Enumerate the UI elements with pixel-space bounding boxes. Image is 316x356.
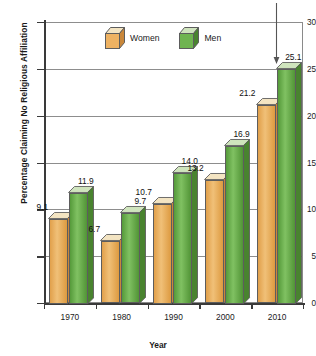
value-label-women-1980: 6.7 <box>88 224 100 234</box>
bar-men-1990 <box>172 172 191 303</box>
orange-cube-icon <box>105 27 125 49</box>
y-tick-mark <box>37 116 44 117</box>
x-tick-mark <box>96 303 97 309</box>
bar-women-2000 <box>204 179 223 303</box>
legend-label-women: Women <box>130 33 159 43</box>
y-axis-line <box>44 20 46 305</box>
x-tick-label-2010: 2010 <box>250 312 304 322</box>
down-arrow-annotation-icon <box>272 3 281 65</box>
legend-item-men: Men <box>179 27 221 49</box>
value-label-men-2000: 16.9 <box>233 129 249 139</box>
value-label-men-1980: 9.7 <box>134 196 146 206</box>
x-tick-mark <box>251 303 252 309</box>
y-tick-mark <box>37 303 44 304</box>
bar-men-2000 <box>224 145 243 303</box>
x-tick-label-1990: 1990 <box>147 312 201 322</box>
value-label-men-1970: 11.9 <box>78 176 94 186</box>
bar-men-2010 <box>276 68 295 303</box>
bar-women-1990 <box>152 203 171 303</box>
legend-item-women: Women <box>105 27 159 49</box>
x-axis-title: Year <box>0 340 316 350</box>
value-label-women-2010: 21.2 <box>239 88 255 98</box>
y-tick-label: 30 <box>286 18 316 27</box>
value-label-women-2000: 13.2 <box>187 163 203 173</box>
value-label-women-1970: 9.1 <box>37 202 49 212</box>
chart-legend: Women Men <box>105 27 221 49</box>
y-tick-mark <box>37 69 44 70</box>
y-tick-mark <box>37 22 44 23</box>
bar-women-1970 <box>48 218 67 303</box>
y-tick-mark <box>37 256 44 257</box>
x-tick-mark <box>199 303 200 309</box>
y-tick-mark <box>37 163 44 164</box>
bar-men-1970 <box>68 192 87 303</box>
green-cube-icon <box>179 27 199 49</box>
y-axis-title: Percentage Claiming No Religious Affilia… <box>19 0 29 233</box>
bar-chart: Percentage Claiming No Religious Affilia… <box>0 0 316 356</box>
x-tick-mark <box>44 303 45 309</box>
value-label-women-1990: 10.7 <box>136 187 152 197</box>
x-tick-label-1980: 1980 <box>95 312 149 322</box>
legend-label-men: Men <box>204 33 221 43</box>
bar-men-1980 <box>120 212 139 303</box>
value-label-men-2010: 25.1 <box>285 52 301 62</box>
x-tick-label-1970: 1970 <box>43 312 97 322</box>
gridline <box>44 22 303 23</box>
x-tick-mark <box>303 303 304 309</box>
gridline <box>44 69 303 70</box>
bar-women-1980 <box>100 240 119 303</box>
x-tick-mark <box>148 303 149 309</box>
bar-women-2010 <box>256 104 275 303</box>
x-tick-label-2000: 2000 <box>198 312 252 322</box>
